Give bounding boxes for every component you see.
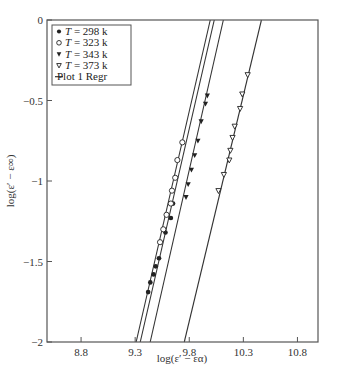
- filled-triangle-marker: [183, 195, 188, 200]
- y-tick-label: −2: [31, 336, 43, 348]
- filled-circle-marker: [148, 280, 153, 285]
- filled-circle-marker: [57, 29, 61, 33]
- x-tick-label: 10.3: [234, 346, 254, 358]
- y-tick-label: −1: [31, 175, 43, 187]
- x-tick-label: 9.3: [128, 346, 142, 358]
- data-markers: [146, 73, 250, 295]
- regression-line: [140, 20, 214, 342]
- open-circle-marker: [164, 212, 169, 217]
- open-triangle-marker: [238, 106, 243, 111]
- y-tick-label: 0: [38, 14, 44, 26]
- open-circle-marker: [175, 157, 180, 162]
- open-circle-marker: [173, 175, 178, 180]
- regression-line: [150, 20, 223, 342]
- legend-entry-label: T = 373 k: [65, 59, 108, 71]
- open-triangle-marker: [232, 124, 237, 129]
- filled-circle-marker: [157, 256, 162, 261]
- legend-entry-label: Plot 1 Regr: [57, 70, 107, 82]
- chart: 8.89.39.810.310.8 0−0.5−1−1.5−2 T = 298 …: [0, 0, 338, 387]
- y-tick-label: −0.5: [23, 95, 43, 107]
- regression-lines: [136, 20, 261, 342]
- open-circle-marker: [180, 140, 185, 145]
- open-circle-marker: [168, 201, 173, 206]
- open-circle-marker: [157, 240, 162, 245]
- open-triangle-marker: [221, 172, 226, 177]
- open-circle-marker: [169, 188, 174, 193]
- y-tick-label: −1.5: [23, 256, 43, 268]
- legend: T = 298 kT = 323 kT = 343 kT = 373 kPlot…: [52, 25, 131, 85]
- x-tick-label: 10.8: [288, 346, 308, 358]
- regression-line: [184, 20, 261, 342]
- filled-circle-marker: [153, 264, 158, 269]
- y-ticks: 0−0.5−1−1.5−2: [23, 14, 52, 348]
- filled-circle-marker: [151, 272, 156, 277]
- legend-entry-label: T = 343 k: [65, 48, 108, 60]
- legend-entry-label: T = 298 k: [65, 25, 108, 37]
- open-triangle-marker: [228, 148, 233, 153]
- open-circle-marker: [161, 227, 166, 232]
- filled-circle-marker: [146, 290, 151, 295]
- x-tick-label: 8.8: [74, 346, 88, 358]
- open-triangle-marker: [230, 135, 235, 140]
- open-triangle-marker: [245, 73, 250, 78]
- y-axis-label: log(ε′ − ε∞): [4, 154, 17, 207]
- filled-circle-marker: [169, 216, 174, 221]
- x-axis-label: log(ε′ − εα): [157, 352, 208, 365]
- legend-entry-label: T = 323 k: [65, 36, 108, 48]
- open-circle-marker: [57, 41, 62, 46]
